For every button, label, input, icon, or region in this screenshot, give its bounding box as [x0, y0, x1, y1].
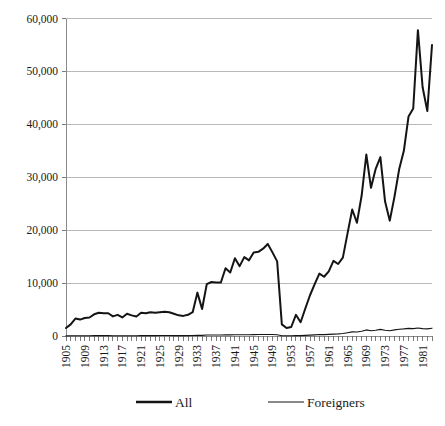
y-tick-labels-group: 010,00020,00030,00040,00050,00060,000: [26, 13, 58, 343]
x-tick-label: 1977: [398, 345, 410, 368]
x-tick-label: 1973: [379, 345, 391, 368]
gridlines-group: [66, 19, 432, 284]
series-line-foreigners: [66, 328, 432, 336]
x-tick-label: 1949: [266, 345, 278, 368]
x-tick-label: 1929: [173, 345, 185, 368]
x-tick-label: 1933: [191, 345, 203, 368]
x-tick-label: 1937: [210, 345, 222, 368]
x-tick-labels-group: 1905190919131917192119251929193319371941…: [60, 345, 429, 368]
x-tick-label: 1945: [248, 345, 260, 368]
x-tick-label: 1957: [304, 345, 316, 368]
x-tick-label: 1953: [285, 345, 297, 368]
x-tick-label: 1961: [323, 345, 335, 368]
x-tick-label: 1965: [342, 345, 354, 368]
y-tick-label: 60,000: [26, 13, 58, 26]
x-tick-label: 1969: [360, 345, 372, 368]
chart-figure: 010,00020,00030,00040,00050,00060,000 19…: [0, 0, 445, 426]
x-axis-group: [66, 336, 432, 341]
x-tick-label: 1913: [98, 345, 110, 368]
x-tick-label: 1917: [116, 345, 128, 368]
x-tick-label: 1925: [154, 345, 166, 368]
x-tick-label: 1909: [79, 345, 91, 368]
legend-label-all: All: [175, 395, 193, 410]
y-axis-group: [62, 19, 66, 337]
legend: AllForeigners: [136, 395, 365, 410]
y-tick-label: 10,000: [26, 277, 58, 290]
y-tick-label: 0: [52, 330, 58, 342]
y-tick-label: 20,000: [26, 224, 58, 237]
x-tick-label: 1921: [135, 345, 147, 368]
x-tick-label: 1941: [229, 345, 241, 368]
y-tick-label: 40,000: [26, 118, 58, 131]
legend-label-foreigners: Foreigners: [307, 395, 365, 410]
y-tick-label: 30,000: [26, 171, 58, 184]
x-tick-label: 1905: [60, 345, 72, 368]
line-chart: 010,00020,00030,00040,00050,00060,000 19…: [0, 0, 445, 426]
series-group: [66, 30, 432, 336]
x-tick-label: 1981: [417, 345, 429, 368]
y-tick-label: 50,000: [26, 65, 58, 78]
